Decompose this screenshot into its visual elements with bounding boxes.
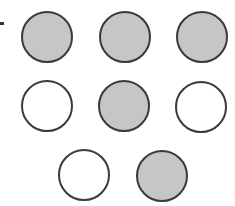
circle-r2-c1 bbox=[21, 80, 73, 132]
circle-r1-c3 bbox=[176, 11, 228, 63]
circle-r1-c2 bbox=[99, 11, 151, 63]
dash-mark bbox=[0, 22, 4, 25]
circle-r3-c1 bbox=[58, 149, 110, 201]
circle-r1-c1 bbox=[21, 11, 73, 63]
circle-r2-c3 bbox=[175, 81, 227, 133]
circle-r2-c2 bbox=[98, 80, 150, 132]
circle-r3-c2 bbox=[136, 150, 188, 202]
